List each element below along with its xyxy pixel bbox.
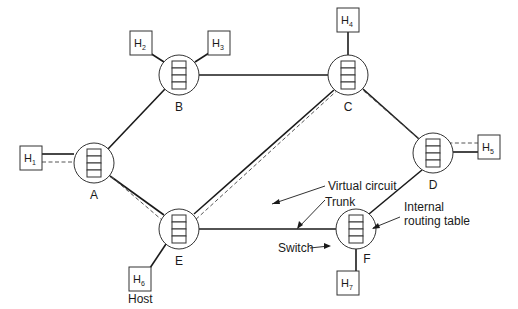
routing-table-icon: [349, 215, 363, 243]
routing-table-icon: [426, 139, 440, 167]
trunk-lines: [108, 75, 422, 229]
switch-label: F: [363, 252, 370, 266]
virtual-circuit-label: Virtual circuit: [328, 179, 397, 193]
routing-table-icon: [172, 61, 186, 89]
switch-label: D: [429, 178, 438, 192]
host-h6: H6: [129, 267, 151, 291]
switch-a: A: [74, 143, 114, 202]
host-label: Host: [128, 292, 153, 306]
switch-d: D: [413, 133, 453, 192]
routing-table-icon: [87, 149, 101, 177]
internal-routing-table-label-2: routing table: [404, 214, 470, 228]
routing-table-icon: [341, 61, 355, 89]
switch-label: Switch: [278, 241, 313, 255]
trunk-a-e: [110, 176, 164, 215]
internal-routing-table-label-1: Internal: [404, 200, 444, 214]
switch-label: C: [344, 100, 353, 114]
link-h6-e: [150, 244, 166, 268]
annotation-switch: Switch: [278, 241, 331, 255]
link-h3-b: [195, 53, 209, 62]
host-h1: H1: [20, 146, 42, 170]
annotation-internal-routing-table: Internal routing table: [372, 200, 470, 229]
network-diagram: ABCDEF H1H2H3H4H5H6H7 Virtual circuit Tr…: [0, 0, 518, 309]
switch-c: C: [328, 55, 368, 114]
switch-label: B: [175, 100, 183, 114]
switch-label: A: [90, 188, 98, 202]
routing-table-icon: [172, 215, 186, 243]
host-h2: H2: [130, 31, 152, 55]
switch-b: B: [159, 55, 199, 114]
host-h3: H3: [208, 31, 230, 55]
switch-label: E: [175, 254, 183, 268]
host-h4: H4: [337, 8, 359, 32]
trunk-label: Trunk: [325, 195, 356, 209]
trunk-a-b: [108, 89, 165, 149]
host-h5: H5: [478, 135, 500, 159]
switches: ABCDEF: [74, 55, 453, 268]
switch-e: E: [159, 209, 199, 268]
trunk-c-e: [194, 90, 334, 214]
host-h7: H7: [337, 271, 359, 295]
